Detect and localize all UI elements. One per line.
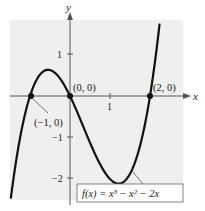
point-label: (−1, 0) <box>34 117 63 129</box>
y-tick-label: −2 <box>52 173 63 184</box>
function-label: f(x) = x³ − x² − 2x <box>82 188 159 200</box>
y-tick-label: −1 <box>52 132 63 143</box>
point-marker <box>147 93 153 99</box>
y-axis-label: y <box>65 1 71 13</box>
point-marker <box>67 93 73 99</box>
x-tick-label: 1 <box>107 101 112 112</box>
point-label: (2, 0) <box>153 82 176 94</box>
y-axis-arrow-icon <box>67 12 73 20</box>
x-axis-arrow-icon <box>183 93 191 99</box>
y-tick-label: 1 <box>57 49 62 60</box>
point-label: (0, 0) <box>73 82 96 94</box>
x-axis-label: x <box>192 90 198 102</box>
point-marker <box>28 93 34 99</box>
function-graph: x y 1 1 −1 −2 (−1, 0) (0, 0) (2, 0) f(x)… <box>0 0 205 211</box>
